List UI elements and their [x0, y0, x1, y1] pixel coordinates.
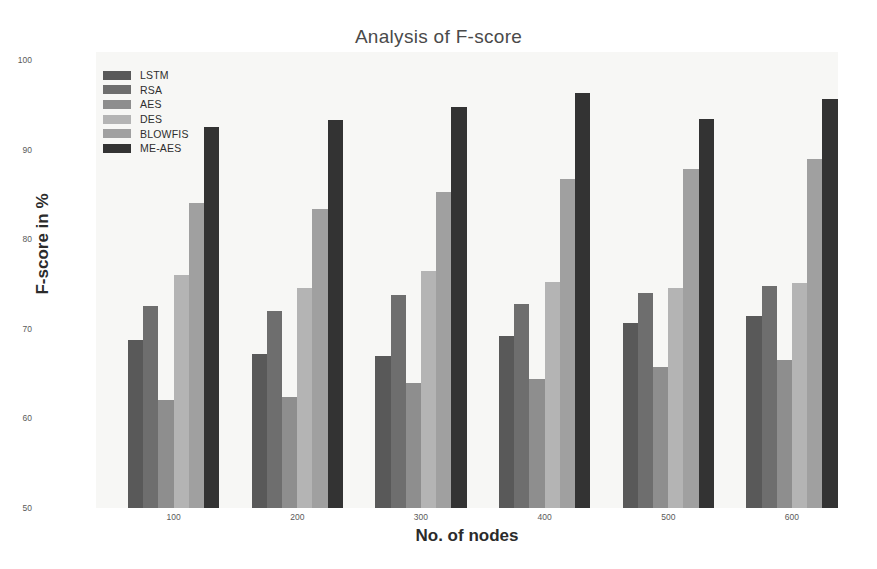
- legend-item-label: AES: [140, 98, 162, 110]
- bar-aes-100: [158, 400, 173, 508]
- bar-me-aes-600: [822, 99, 837, 508]
- bar-rsa-600: [762, 286, 777, 508]
- legend-swatch-icon: [103, 129, 131, 138]
- legend-item-lstm[interactable]: LSTM: [103, 68, 233, 83]
- bar-lstm-300: [375, 356, 390, 508]
- legend-item-label: RSA: [140, 84, 162, 96]
- bar-blowfis-400: [560, 179, 575, 508]
- legend-swatch-icon: [103, 144, 131, 153]
- bar-lstm-400: [499, 336, 514, 508]
- legend-item-blowfis[interactable]: BLOWFIS: [103, 126, 233, 141]
- x-axis-tick-label: 300: [414, 512, 428, 522]
- x-axis-tick-label: 500: [661, 512, 675, 522]
- legend-item-label: ME-AES: [140, 142, 181, 154]
- bar-lstm-600: [746, 316, 761, 508]
- x-axis-tick-label: 400: [538, 512, 552, 522]
- bar-des-100: [174, 275, 189, 508]
- bar-blowfis-600: [807, 159, 822, 508]
- bar-lstm-200: [252, 354, 267, 508]
- legend-item-label: DES: [140, 113, 162, 125]
- bar-lstm-500: [623, 323, 638, 508]
- bar-me-aes-300: [451, 107, 466, 508]
- legend-swatch-icon: [103, 71, 131, 80]
- bar-aes-400: [529, 379, 544, 508]
- bar-blowfis-200: [312, 209, 327, 508]
- bar-blowfis-500: [683, 169, 698, 508]
- bar-rsa-300: [391, 295, 406, 508]
- chart-legend: LSTMRSAAESDESBLOWFISME-AES: [103, 68, 233, 156]
- bar-des-300: [421, 271, 436, 508]
- bar-des-200: [297, 288, 312, 508]
- bar-rsa-200: [267, 311, 282, 508]
- legend-item-rsa[interactable]: RSA: [103, 83, 233, 98]
- bar-rsa-500: [638, 293, 653, 508]
- legend-swatch-icon: [103, 115, 131, 124]
- bar-aes-500: [653, 367, 668, 508]
- bar-lstm-100: [128, 340, 143, 508]
- chart-figure: Analysis of F-score F-score in % No. of …: [0, 0, 877, 569]
- legend-item-aes[interactable]: AES: [103, 97, 233, 112]
- x-axis-tick-label: 600: [785, 512, 799, 522]
- legend-swatch-icon: [103, 100, 131, 109]
- legend-item-label: BLOWFIS: [140, 128, 189, 140]
- bar-me-aes-100: [204, 127, 219, 508]
- bar-des-400: [545, 282, 560, 508]
- bar-blowfis-300: [436, 192, 451, 508]
- bar-des-600: [792, 283, 807, 508]
- bar-aes-300: [406, 383, 421, 508]
- bar-aes-600: [777, 360, 792, 508]
- bar-me-aes-200: [328, 120, 343, 508]
- bar-des-500: [668, 288, 683, 508]
- bar-me-aes-400: [575, 93, 590, 508]
- legend-item-des[interactable]: DES: [103, 112, 233, 127]
- x-axis-tick-label: 200: [290, 512, 304, 522]
- bar-me-aes-500: [699, 119, 714, 508]
- bar-aes-200: [282, 397, 297, 508]
- legend-item-me-aes[interactable]: ME-AES: [103, 141, 233, 156]
- legend-swatch-icon: [103, 85, 131, 94]
- legend-item-label: LSTM: [140, 69, 169, 81]
- bar-rsa-400: [514, 304, 529, 508]
- x-axis-tick-label: 100: [167, 512, 181, 522]
- bar-rsa-100: [143, 306, 158, 508]
- bar-blowfis-100: [189, 203, 204, 508]
